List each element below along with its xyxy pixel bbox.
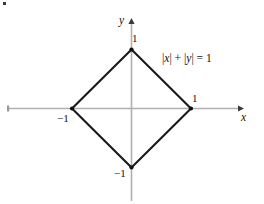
y-axis-group <box>128 18 134 201</box>
tick-label-y-negative-one: −1 <box>114 168 126 179</box>
equation-equals-sign: = <box>194 52 206 64</box>
equation-annotation: |x| + |y| = 1 <box>162 53 212 65</box>
plot-svg <box>0 0 264 204</box>
x-axis-left-cap <box>7 106 9 112</box>
equation-right-side: 1 <box>206 52 212 64</box>
x-axis-group <box>7 105 244 111</box>
tick-label-x-positive-one: 1 <box>192 93 198 104</box>
tick-label-y-positive-one: 1 <box>132 33 138 44</box>
x-axis-label: x <box>241 112 246 124</box>
y-axis-label: y <box>119 15 124 27</box>
vertex-point-right <box>189 106 193 110</box>
y-axis-arrowhead <box>128 18 134 24</box>
vertex-point-top <box>129 47 133 51</box>
tick-label-x-negative-one: −1 <box>57 113 69 124</box>
vertex-point-bottom <box>129 165 133 169</box>
figure-canvas: x y 1 1 −1 −1 |x| + |y| = 1 <box>0 0 264 204</box>
equation-plus-sign: + <box>172 52 184 64</box>
vertex-point-left <box>70 106 74 110</box>
